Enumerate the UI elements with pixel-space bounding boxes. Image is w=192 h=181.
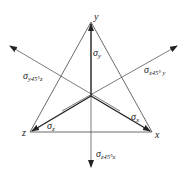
arrow-x45y xyxy=(62,46,177,111)
label-sigma-x45y: σx45° y xyxy=(144,64,166,76)
label-sigma-x: σx xyxy=(131,111,140,124)
label-sigma-z45x: σz45°x xyxy=(96,148,116,160)
axis-label-x: x xyxy=(154,129,160,140)
label-sigma-y45z: σy45°z xyxy=(23,70,43,82)
label-sigma-z: σz xyxy=(47,120,55,133)
label-sigma-y: σy xyxy=(93,47,102,60)
stress-diagram: y z x σy σx σz σy45°z σx45° y σz45°x xyxy=(0,0,192,181)
diagonal-axes xyxy=(10,46,177,167)
arrow-sigma-x xyxy=(91,96,150,131)
arrow-sigma-z xyxy=(32,96,91,131)
axis-label-z: z xyxy=(21,127,26,138)
axis-label-y: y xyxy=(93,11,99,22)
